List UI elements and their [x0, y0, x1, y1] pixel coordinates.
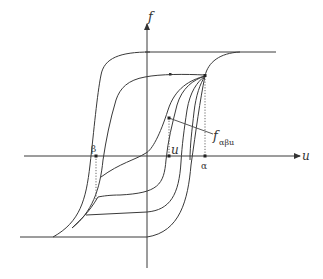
lower-ascending-curve [72, 197, 98, 228]
f-alpha-beta-u-leader [169, 118, 213, 134]
alpha-label: α [201, 161, 207, 171]
hysteresis-diagram: f u α β u f αβu [0, 0, 323, 279]
alpha-point [204, 155, 207, 158]
reversal-curve-1 [101, 76, 205, 177]
reversal-curve-3 [86, 76, 205, 215]
f-axis-label: f [147, 9, 155, 24]
alpha-top-point [204, 74, 207, 77]
u-point-label: u [171, 143, 179, 157]
top-curve-point [169, 73, 172, 76]
beta-point [95, 155, 98, 158]
beta-label: β [91, 144, 96, 154]
f-alpha-beta-u-point [168, 117, 171, 120]
u-axis-label: u [302, 149, 310, 163]
f-alpha-beta-u-subscript: αβu [219, 138, 234, 147]
